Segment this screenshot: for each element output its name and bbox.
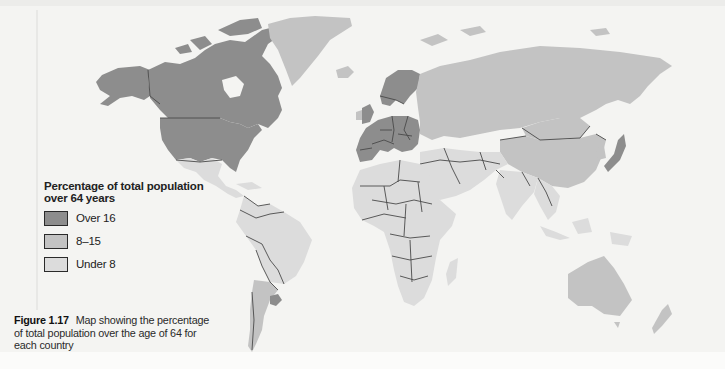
country-tasmania xyxy=(614,322,620,328)
legend-title: Percentage of total population over 64 y… xyxy=(44,180,204,204)
legend-swatch-low xyxy=(44,257,68,272)
country-uk xyxy=(362,104,374,124)
country-alaska xyxy=(96,66,150,106)
country-scandinavia xyxy=(380,70,420,106)
region-north-america xyxy=(96,18,282,172)
legend-swatch-mid xyxy=(44,234,68,249)
country-australia xyxy=(568,256,632,316)
country-iceland xyxy=(336,66,354,78)
legend-swatch-high xyxy=(44,211,68,226)
country-japan xyxy=(604,134,626,172)
map-legend: Percentage of total population over 64 y… xyxy=(44,180,204,273)
country-canada xyxy=(148,26,282,128)
legend-item-over-16: Over 16 xyxy=(44,209,204,227)
legend-label: Under 8 xyxy=(76,258,116,270)
page-edge-bottom xyxy=(0,352,725,369)
country-ireland xyxy=(356,110,362,120)
figure-number: Figure 1.17 xyxy=(14,314,69,326)
legend-label: Over 16 xyxy=(76,212,116,224)
legend-item-under-8: Under 8 xyxy=(44,255,204,273)
country-india xyxy=(496,170,538,220)
legend-item-8-15: 8–15 xyxy=(44,232,204,250)
region-south-america xyxy=(236,196,312,352)
country-uruguay xyxy=(270,294,282,306)
figure-caption: Figure 1.17 Map showing the percentage o… xyxy=(14,314,214,352)
region-europe xyxy=(356,70,420,162)
country-indonesia xyxy=(540,218,632,246)
country-madagascar xyxy=(446,258,458,286)
legend-label: 8–15 xyxy=(76,235,101,247)
country-south-america-north xyxy=(236,196,312,284)
country-new-zealand xyxy=(652,304,672,334)
